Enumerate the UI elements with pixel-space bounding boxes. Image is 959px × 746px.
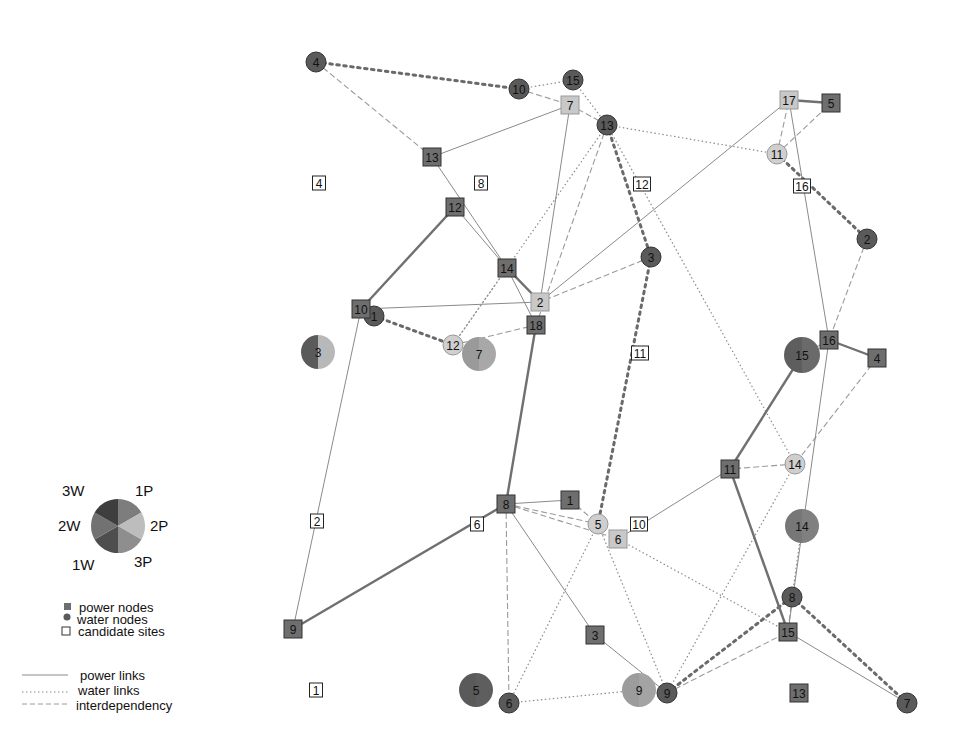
- interdependency-link: [829, 239, 867, 340]
- power-node-17[interactable]: 17: [780, 91, 798, 109]
- power-node-5[interactable]: 5: [822, 94, 840, 112]
- water-node-pie-7[interactable]: 7: [462, 337, 496, 371]
- power-node-10[interactable]: 10: [352, 300, 370, 318]
- legend-power-links: power links: [80, 668, 146, 683]
- power-node-8[interactable]: 8: [497, 495, 515, 513]
- node-label: 1: [371, 310, 378, 324]
- node-label: 12: [635, 178, 649, 192]
- legend-interdependency: interdependency: [76, 698, 173, 713]
- water-link: [667, 464, 795, 693]
- node-label: 2: [314, 515, 321, 529]
- node-label: 16: [822, 334, 836, 348]
- power-node-13[interactable]: 13: [423, 148, 441, 166]
- node-label: 10: [512, 83, 526, 97]
- candidate-site-1[interactable]: 1: [310, 683, 323, 698]
- node-label: 6: [506, 697, 513, 711]
- power-link: [506, 500, 570, 504]
- candidate-site-10[interactable]: 10: [631, 517, 648, 532]
- node-label: 11: [634, 347, 647, 361]
- power-link: [506, 504, 595, 635]
- water-node-12[interactable]: 12: [443, 335, 463, 355]
- water-node-swatch-icon: [64, 614, 71, 621]
- power-node-12[interactable]: 12: [446, 198, 464, 216]
- power-node-11[interactable]: 11: [721, 460, 739, 478]
- candidate-site-12[interactable]: 12: [634, 177, 651, 192]
- node-label: 13: [792, 687, 806, 701]
- interdependency-link: [795, 358, 877, 464]
- water-node-4[interactable]: 4: [306, 52, 326, 72]
- water-link: [509, 524, 598, 703]
- power-link: [361, 302, 540, 309]
- node-label: 12: [446, 339, 460, 353]
- power-node-15[interactable]: 15: [779, 623, 797, 641]
- water-node-7[interactable]: 7: [897, 693, 917, 713]
- water-node-2[interactable]: 2: [857, 229, 877, 249]
- legend-pie-chart: [91, 499, 145, 553]
- power-node-13[interactable]: 13: [790, 684, 808, 702]
- water-node-pie-5[interactable]: 5: [459, 673, 493, 707]
- node-label: 8: [789, 591, 796, 605]
- node-label: 12: [448, 201, 462, 215]
- power-node-18[interactable]: 18: [527, 316, 545, 334]
- power-node-4[interactable]: 4: [868, 349, 886, 367]
- node-label: 8: [503, 498, 510, 512]
- legend: 3W 1P 2W 2P 1W 3P power nodes water node…: [22, 482, 173, 713]
- legend-label-3p: 3P: [134, 553, 152, 570]
- power-node-7[interactable]: 7: [561, 96, 579, 114]
- power-link-heavy: [730, 355, 802, 469]
- power-node-6[interactable]: 6: [609, 530, 627, 548]
- water-node-6[interactable]: 6: [499, 693, 519, 713]
- water-node-pie-14[interactable]: 14: [785, 509, 819, 543]
- water-node-13[interactable]: 13: [597, 115, 617, 135]
- power-node-1[interactable]: 1: [561, 491, 579, 509]
- water-node-5[interactable]: 5: [588, 514, 608, 534]
- water-node-11[interactable]: 11: [767, 144, 787, 164]
- node-label: 4: [313, 56, 320, 70]
- node-label: 6: [474, 518, 481, 532]
- node-label: 9: [290, 623, 297, 637]
- node-label: 13: [425, 151, 439, 165]
- power-node-swatch-icon: [64, 603, 71, 610]
- candidate-site-11[interactable]: 11: [632, 346, 649, 361]
- node-label: 4: [874, 352, 881, 366]
- water-node-8[interactable]: 8: [782, 587, 802, 607]
- water-node-9[interactable]: 9: [657, 683, 677, 703]
- legend-label-2w: 2W: [58, 517, 81, 534]
- candidate-site-8[interactable]: 8: [475, 176, 488, 191]
- water-node-3[interactable]: 3: [641, 247, 661, 267]
- node-label: 9: [664, 687, 671, 701]
- water-node-pie-9[interactable]: 9: [622, 673, 656, 707]
- water-link-heavy: [316, 62, 519, 89]
- power-node-2[interactable]: 2: [531, 293, 549, 311]
- water-node-10[interactable]: 10: [509, 79, 529, 99]
- node-label: 3: [592, 629, 599, 643]
- node-label: 9: [636, 684, 643, 698]
- node-label: 14: [795, 520, 809, 534]
- node-label: 3: [315, 346, 322, 360]
- network-diagram: 4812161126101371514594101513112311214586…: [0, 0, 959, 746]
- node-label: 5: [595, 518, 602, 532]
- candidate-site-16[interactable]: 16: [794, 179, 811, 194]
- interdependency-link: [506, 504, 509, 703]
- water-link: [607, 125, 777, 154]
- power-node-3[interactable]: 3: [586, 626, 604, 644]
- power-node-14[interactable]: 14: [498, 259, 516, 277]
- node-label: 1: [313, 684, 320, 698]
- candidate-site-6[interactable]: 6: [471, 517, 484, 532]
- water-node-pie-3[interactable]: 3: [301, 335, 335, 369]
- node-label: 13: [600, 119, 614, 133]
- water-link-heavy: [667, 597, 792, 693]
- node-label: 1: [567, 494, 574, 508]
- power-node-16[interactable]: 16: [820, 331, 838, 349]
- links-layer: [293, 62, 907, 703]
- power-link: [432, 157, 507, 268]
- power-node-9[interactable]: 9: [284, 620, 302, 638]
- water-link: [509, 690, 639, 703]
- candidate-site-4[interactable]: 4: [313, 176, 326, 191]
- water-node-14[interactable]: 14: [785, 454, 805, 474]
- water-node-15[interactable]: 15: [563, 70, 583, 90]
- interdependency-link: [667, 632, 788, 693]
- power-link-heavy: [506, 325, 536, 504]
- candidate-site-2[interactable]: 2: [311, 514, 324, 529]
- water-node-pie-15[interactable]: 15: [784, 337, 820, 373]
